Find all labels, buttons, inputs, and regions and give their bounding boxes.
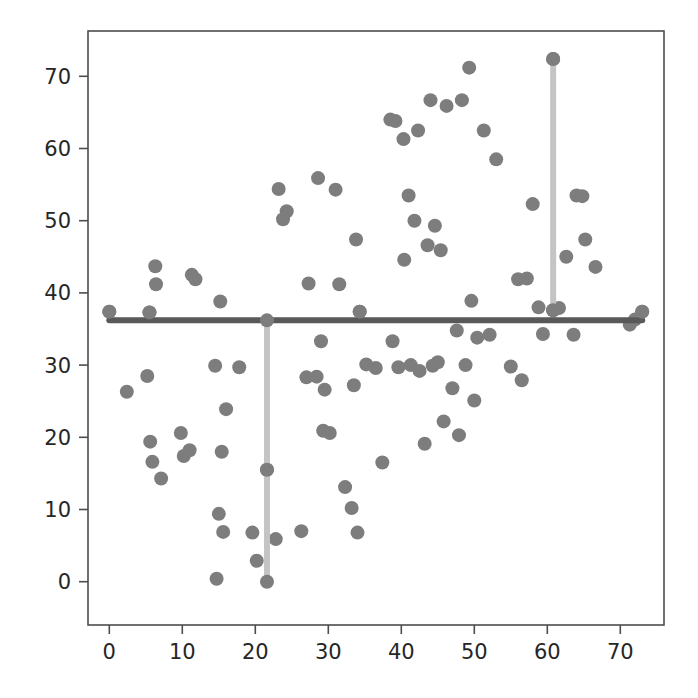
scatter-point	[520, 271, 534, 285]
scatter-point	[183, 443, 197, 457]
y-tick-label-60: 60	[44, 137, 71, 161]
crosshair-node-marker	[353, 305, 367, 319]
scatter-point	[428, 219, 442, 233]
scatter-point	[455, 93, 469, 107]
scatter-point	[388, 114, 402, 128]
scatter-point	[213, 295, 227, 309]
scatter-plot-figure: 010203040506070 010203040506070	[0, 0, 698, 698]
y-tick-label-20: 20	[44, 426, 71, 450]
scatter-point	[567, 328, 581, 342]
crosshair-node-marker	[142, 305, 156, 319]
scatter-point	[407, 214, 421, 228]
scatter-point	[145, 455, 159, 469]
x-tick-label-0: 0	[103, 640, 116, 664]
scatter-point	[351, 526, 365, 540]
scatter-point	[210, 572, 224, 586]
scatter-point	[588, 260, 602, 274]
x-tick-label-10: 10	[169, 640, 196, 664]
scatter-point	[578, 232, 592, 246]
scatter-point	[208, 359, 222, 373]
scatter-point	[575, 189, 589, 203]
crosshair-node-marker	[260, 575, 274, 589]
scatter-point	[431, 355, 445, 369]
scatter-point	[310, 370, 324, 384]
scatter-point	[411, 123, 425, 137]
scatter-point	[536, 327, 550, 341]
x-axis-tick-labels: 010203040506070	[103, 640, 634, 664]
scatter-point	[391, 360, 405, 374]
scatter-point	[489, 152, 503, 166]
axes-frame	[88, 31, 664, 625]
scatter-point	[396, 132, 410, 146]
scatter-point	[280, 204, 294, 218]
scatter-point	[413, 364, 427, 378]
scatter-point	[437, 414, 451, 428]
scatter-point	[532, 300, 546, 314]
plot-frame	[88, 31, 664, 625]
x-tick-label-40: 40	[388, 640, 415, 664]
y-tick-label-30: 30	[44, 354, 71, 378]
scatter-point	[219, 402, 233, 416]
scatter-point	[154, 471, 168, 485]
crosshair-node-marker	[260, 313, 274, 327]
scatter-point	[467, 393, 481, 407]
scatter-point	[375, 456, 389, 470]
scatter-point	[515, 373, 529, 387]
crosshair-node-marker	[102, 305, 116, 319]
crosshair-node-marker	[546, 303, 560, 317]
scatter-point	[440, 99, 454, 113]
scatter-point	[450, 323, 464, 337]
scatter-point	[311, 171, 325, 185]
scatter-point	[559, 250, 573, 264]
scatter-point	[269, 532, 283, 546]
scatter-point	[215, 445, 229, 459]
scatter-point	[526, 197, 540, 211]
scatter-point	[323, 426, 337, 440]
scatter-point	[434, 243, 448, 257]
scatter-point	[188, 272, 202, 286]
scatter-point	[470, 331, 484, 345]
scatter-point	[345, 501, 359, 515]
x-tick-label-50: 50	[461, 640, 488, 664]
scatter-point	[477, 123, 491, 137]
crosshair-node-marker	[546, 52, 560, 66]
scatter-point	[174, 426, 188, 440]
scatter-point	[212, 507, 226, 521]
scatter-point	[464, 294, 478, 308]
scatter-point	[459, 358, 473, 372]
scatter-point	[347, 378, 361, 392]
scatter-point	[329, 183, 343, 197]
scatter-point	[397, 253, 411, 267]
scatter-point	[314, 334, 328, 348]
scatter-point	[445, 381, 459, 395]
scatter-point	[504, 360, 518, 374]
y-tick-label-40: 40	[44, 281, 71, 305]
plot-canvas: 010203040506070 010203040506070	[0, 0, 698, 698]
scatter-point	[418, 437, 432, 451]
scatter-point	[250, 554, 264, 568]
scatter-point	[294, 524, 308, 538]
crosshair-node-marker	[635, 305, 649, 319]
y-tick-label-10: 10	[44, 498, 71, 522]
x-tick-label-60: 60	[534, 640, 561, 664]
scatter-point	[452, 428, 466, 442]
scatter-point	[338, 480, 352, 494]
crosshair-annotation-group	[109, 59, 642, 582]
scatter-point	[302, 277, 316, 291]
scatter-point	[149, 277, 163, 291]
scatter-point	[148, 259, 162, 273]
scatter-point	[369, 361, 383, 375]
y-tick-label-0: 0	[58, 570, 71, 594]
crosshair-node-marker	[260, 463, 274, 477]
scatter-point	[421, 238, 435, 252]
scatter-point	[483, 328, 497, 342]
scatter-point	[120, 385, 134, 399]
scatter-point	[143, 435, 157, 449]
y-axis-tick-labels: 010203040506070	[44, 65, 71, 594]
scatter-point	[140, 369, 154, 383]
x-tick-label-70: 70	[607, 640, 634, 664]
y-axis-ticks	[79, 76, 88, 581]
scatter-point	[272, 182, 286, 196]
scatter-point	[318, 383, 332, 397]
scatter-point	[232, 360, 246, 374]
